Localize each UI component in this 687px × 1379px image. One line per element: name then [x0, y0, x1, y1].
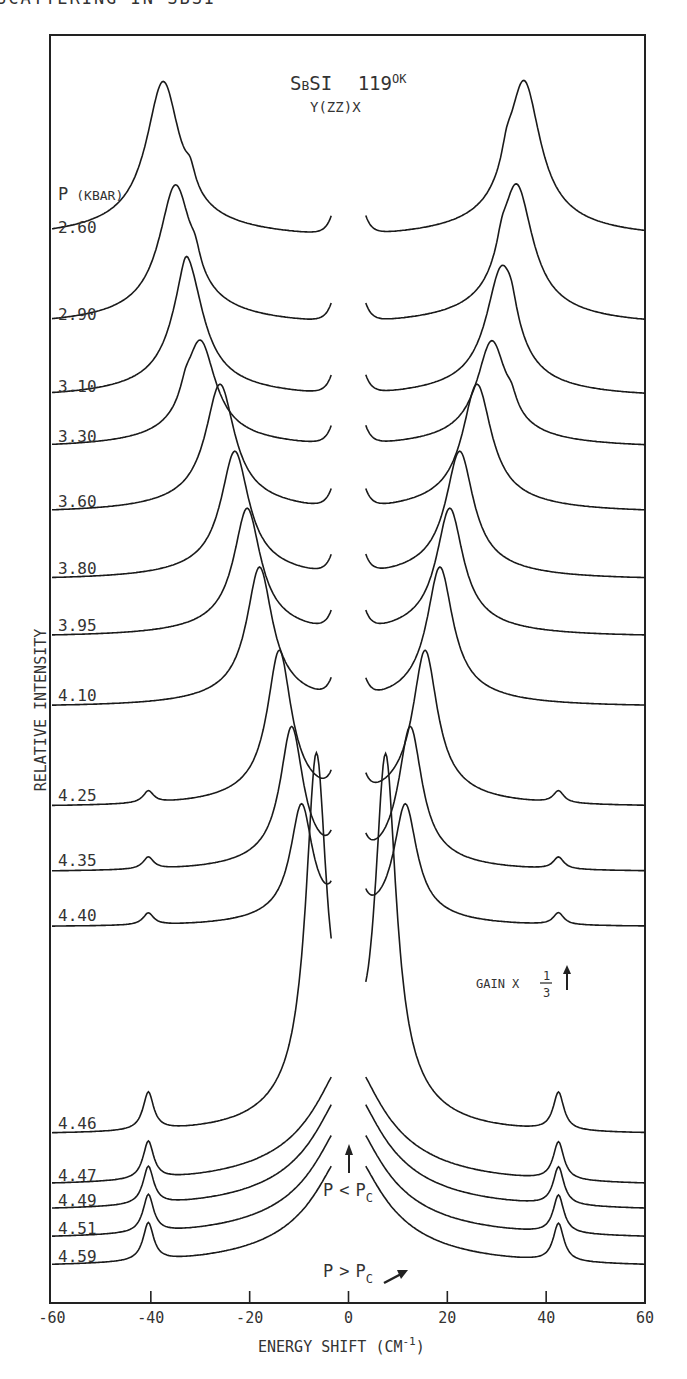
- spectrum-curve-stokes: [366, 508, 645, 635]
- x-tick-label: -60: [38, 1309, 65, 1327]
- svg-text:GAIN X: GAIN X: [476, 977, 520, 991]
- spectrum-curve-stokes: [366, 567, 645, 705]
- spectrum-curve-stokes: [366, 1077, 645, 1183]
- x-tick-label: 20: [438, 1309, 456, 1327]
- spectrum-curve-stokes: [366, 1136, 645, 1237]
- x-tick-label: -40: [137, 1309, 164, 1327]
- spectrum-curve-stokes: [366, 265, 645, 393]
- pressure-labels: 2.602.903.103.303.603.803.954.104.254.35…: [58, 218, 97, 1266]
- spectrum-curve-anti-stokes: [52, 81, 331, 232]
- spectrum-curve-stokes: [366, 341, 645, 445]
- pressure-label: 4.25: [58, 786, 97, 805]
- spectrum-curve-anti-stokes: [52, 567, 331, 705]
- raman-spectra-chart: -60-40-200204060 2.602.903.103.303.603.8…: [0, 0, 687, 1379]
- pressure-label: 4.51: [58, 1219, 97, 1238]
- svg-text:P>PC: P>PC: [323, 1261, 373, 1286]
- y-axis-label: RELATIVE INTENSITY: [32, 629, 50, 792]
- pressure-label: 3.80: [58, 559, 97, 578]
- svg-text:1: 1: [543, 969, 550, 983]
- pressure-label: 2.60: [58, 218, 97, 237]
- spectrum-curve-anti-stokes: [52, 650, 331, 805]
- pressure-label: 3.10: [58, 377, 97, 396]
- x-tick-label: 60: [636, 1309, 654, 1327]
- x-tick-label: -20: [236, 1309, 263, 1327]
- pressure-label: 4.35: [58, 851, 97, 870]
- pressure-label: 4.40: [58, 906, 97, 925]
- pressure-label: 4.46: [58, 1114, 97, 1133]
- p-greater-than-pc-annotation: P>PC: [323, 1261, 408, 1286]
- diagonal-arrow-icon: [384, 1270, 408, 1283]
- up-arrow-icon: [345, 1144, 353, 1173]
- spectrum-curve-anti-stokes: [52, 384, 331, 510]
- pressure-label: 3.60: [58, 492, 97, 511]
- spectrum-curve-stokes: [366, 384, 645, 510]
- pressure-label: 4.47: [58, 1166, 97, 1185]
- spectra-curves: [52, 80, 645, 1264]
- x-tick-label: 40: [537, 1309, 555, 1327]
- spectrum-curve-stokes: [366, 754, 645, 1133]
- spectrum-curve-anti-stokes: [52, 753, 331, 1133]
- pressure-label: 4.59: [58, 1247, 97, 1266]
- x-tick-label: 0: [344, 1309, 353, 1327]
- legend-header: P(KBAR): [58, 184, 123, 204]
- chart-subtitle: Y(ZZ)X: [310, 99, 361, 115]
- gain-annotation: GAIN X 1 3: [476, 965, 571, 1000]
- svg-text:3: 3: [543, 986, 550, 1000]
- spectrum-curve-stokes: [366, 1105, 645, 1208]
- svg-text:P<PC: P<PC: [323, 1180, 373, 1205]
- pressure-label: 4.10: [58, 686, 97, 705]
- pressure-label: 3.30: [58, 427, 97, 446]
- spectrum-curve-stokes: [366, 726, 645, 870]
- p-less-than-pc-annotation: P<PC: [323, 1144, 373, 1205]
- up-arrow-icon: [563, 965, 571, 990]
- spectrum-curve-stokes: [366, 184, 645, 319]
- spectrum-curve-anti-stokes: [52, 257, 331, 393]
- pressure-label: 4.49: [58, 1191, 97, 1210]
- spectrum-curve-anti-stokes: [52, 185, 331, 319]
- pressure-label: 2.90: [58, 305, 97, 324]
- plot-frame: [50, 35, 645, 1303]
- x-axis-label: ENERGY SHIFT (CM-1): [258, 1335, 425, 1356]
- chart-title: SBSI 119OK: [290, 72, 407, 94]
- x-axis-ticks: -60-40-200204060: [38, 1291, 654, 1327]
- spectrum-curve-stokes: [366, 650, 645, 805]
- pressure-label: 3.95: [58, 616, 97, 635]
